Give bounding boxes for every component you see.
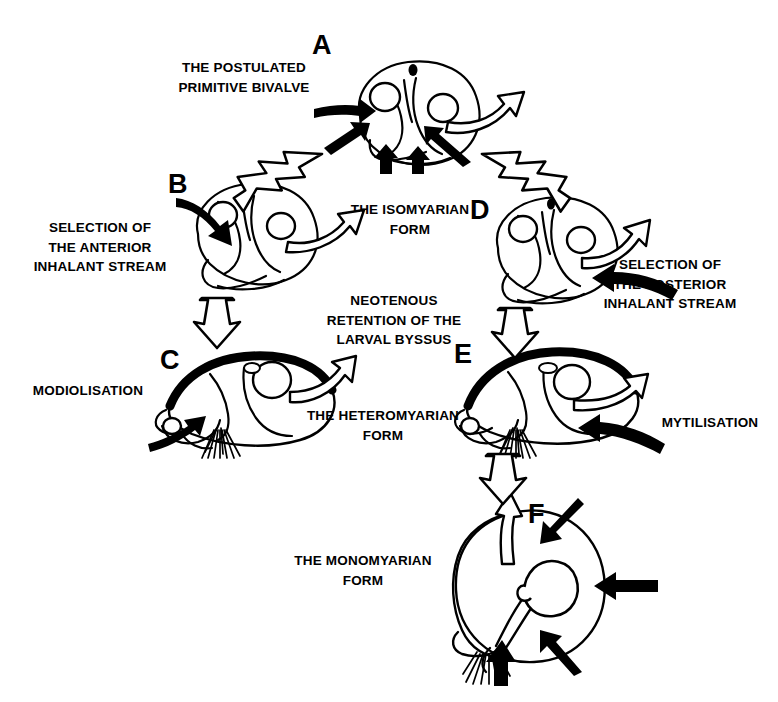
enlarged-posterior-adductor-muscle [554, 365, 590, 399]
central-adductor-muscle [524, 561, 578, 616]
posterior-adductor-muscle [428, 94, 458, 122]
transition-arrow-b-to-c [192, 296, 242, 352]
label-modiolisation: MODIOLISATION [18, 381, 158, 401]
figure-e-heteromyarian [452, 344, 667, 460]
inhalant-arrow-posterior [578, 414, 665, 454]
pallial-pit [244, 363, 260, 373]
umbo-marker [409, 64, 418, 76]
figure-c-heteromyarian [148, 348, 358, 460]
reduced-anterior-adductor-muscle [461, 418, 479, 434]
posterior-adductor-muscle [567, 227, 595, 253]
inhalant-arrow-ventral-2 [406, 146, 430, 174]
anterior-adductor-muscle [370, 83, 400, 111]
pallial-pit [539, 363, 557, 373]
transition-arrow-a-to-b [224, 148, 334, 222]
inhalant-arrow-bottom-right [540, 630, 582, 676]
transition-arrow-e-to-f [478, 452, 528, 508]
inhalant-arrow-posterior [592, 264, 678, 300]
figure-f-monomyarian [430, 486, 660, 686]
label-monomyarian-form: THE MONOMYARIAN FORM [270, 551, 456, 590]
label-selection-anterior-inhalant-stream: SELECTION OF THE ANTERIOR INHALANT STREA… [8, 218, 192, 277]
inhalant-arrow-bottom [486, 640, 516, 686]
reduced-anterior-adductor-muscle [163, 418, 181, 434]
diagram-canvas: THE POSTULATED PRIMITIVE BIVALVE THE ISO… [0, 0, 778, 702]
transition-arrow-a-to-d [470, 148, 580, 222]
inhalant-arrow-left [314, 99, 376, 123]
transition-arrow-d-to-e [490, 306, 540, 362]
inhalant-arrow-top-right [540, 498, 584, 544]
